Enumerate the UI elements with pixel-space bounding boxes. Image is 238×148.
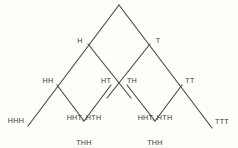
coin-flip-lattice-diagram: H T HH HT TH TT HHH HHT, HTH THH HHT, HT… — [0, 0, 238, 148]
node-label-ttt: TTT — [215, 118, 229, 126]
node-label-mid-right-line1: HHT, HTH — [138, 114, 173, 122]
lattice-lines — [0, 0, 238, 148]
edge-t-to-ht — [107, 44, 150, 98]
node-label-tt: TT — [185, 77, 194, 85]
node-label-t: T — [156, 37, 161, 45]
node-label-mid-left: HHT, HTH THH — [67, 97, 102, 148]
node-label-mid-left-line2: THH — [67, 139, 102, 147]
node-label-ht: HT — [101, 77, 111, 85]
node-label-hh: HH — [43, 77, 54, 85]
node-label-th: TH — [127, 77, 137, 85]
node-label-mid-right-line2: THH — [138, 139, 173, 147]
node-label-mid-left-line1: HHT, HTH — [67, 114, 102, 122]
node-label-mid-right: HHT, HTH THH — [138, 97, 173, 148]
node-label-h: H — [77, 37, 82, 45]
node-label-hhh: HHH — [8, 117, 24, 125]
edge-h-to-th — [88, 44, 131, 98]
